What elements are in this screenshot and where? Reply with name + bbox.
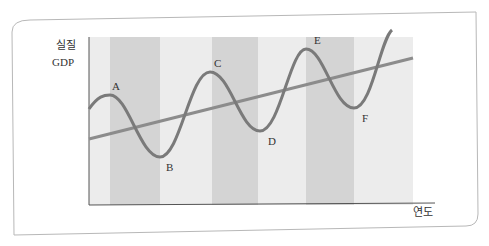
point-label-e: E	[314, 35, 321, 46]
band-contraction-1	[110, 37, 160, 205]
band-contraction-3	[306, 37, 354, 205]
band-expansion-3	[258, 37, 306, 205]
point-label-a: A	[112, 81, 120, 92]
point-label-c: C	[214, 58, 221, 69]
band-expansion-1	[89, 37, 110, 205]
band-expansion-2	[160, 37, 212, 205]
point-label-b: B	[166, 162, 173, 173]
point-label-d: D	[268, 136, 276, 147]
y-axis-label-line1: 실질	[56, 40, 76, 51]
y-axis-label-line2: GDP	[52, 57, 74, 68]
point-label-f: F	[362, 113, 368, 124]
x-axis-label: 연도	[413, 207, 433, 218]
